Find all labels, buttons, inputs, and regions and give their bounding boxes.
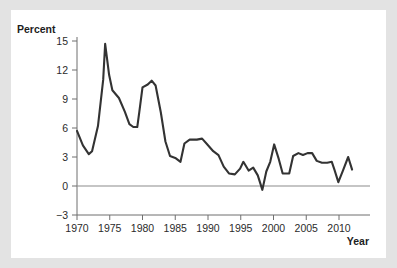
x-tick-label: 1995: [229, 222, 253, 234]
x-tick-label: 1990: [196, 222, 220, 234]
y-tick-label: 0: [62, 180, 68, 192]
x-tick-label: 2005: [295, 222, 319, 234]
data-series-line: [77, 44, 352, 190]
y-tick-labels: −303691215: [56, 35, 68, 221]
x-tick-label: 2000: [262, 222, 286, 234]
y-tick-marks: [72, 41, 77, 215]
y-tick-label: 3: [62, 151, 68, 163]
x-axis-group: 197019751980198519901995200020052010 Yea…: [65, 215, 370, 247]
y-axis-title: Percent: [17, 23, 56, 35]
x-tick-label: 2010: [327, 222, 351, 234]
y-tick-label: 15: [56, 35, 68, 47]
x-tick-label: 1970: [65, 222, 89, 234]
y-tick-label: −3: [56, 209, 68, 221]
x-tick-labels: 197019751980198519901995200020052010: [65, 222, 351, 234]
chart-figure: −303691215 Percent 197019751980198519901…: [0, 0, 397, 268]
x-tick-marks: [77, 215, 339, 220]
x-tick-label: 1985: [164, 222, 188, 234]
x-tick-label: 1980: [131, 222, 155, 234]
y-tick-label: 9: [62, 93, 68, 105]
y-axis-group: −303691215 Percent: [17, 23, 77, 221]
x-axis-title: Year: [347, 235, 369, 247]
y-tick-label: 12: [56, 64, 68, 76]
line-chart-svg: −303691215 Percent 197019751980198519901…: [0, 0, 397, 268]
x-tick-label: 1975: [98, 222, 122, 234]
y-tick-label: 6: [62, 122, 68, 134]
